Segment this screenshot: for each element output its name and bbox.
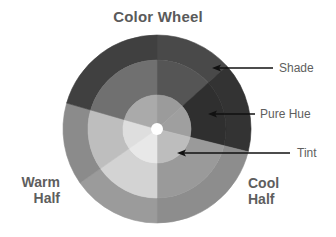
cool-line-1: Cool	[248, 175, 279, 191]
label-shade: Shade	[279, 61, 314, 75]
label-pure-hue: Pure Hue	[260, 107, 311, 121]
label-warm-half: Warm Half	[18, 174, 60, 206]
warm-line-2: Half	[18, 190, 60, 206]
center-hole	[151, 123, 163, 135]
label-tint: Tint	[297, 146, 317, 160]
warm-line-1: Warm	[18, 174, 60, 190]
label-cool-half: Cool Half	[248, 175, 279, 207]
cool-line-2: Half	[248, 191, 279, 207]
